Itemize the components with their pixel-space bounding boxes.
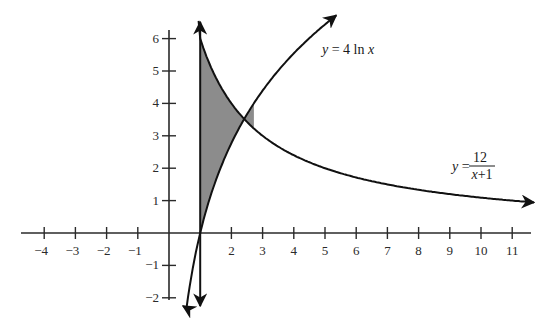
x-tick-label: 9	[447, 243, 454, 258]
label-frac-numerator: 12	[473, 150, 487, 165]
label-ln-equation: y = 4 ln x	[320, 42, 375, 57]
x-tick-label: 7	[384, 243, 391, 258]
x-tick-label: −3	[65, 243, 79, 258]
y-tick-label: −1	[145, 257, 159, 272]
label-ln-x: x	[367, 42, 375, 57]
y-tick-label: 1	[153, 193, 160, 208]
y-tick-label: 3	[153, 128, 160, 143]
x-tick-label: 4	[291, 243, 298, 258]
x-tick-label: 8	[415, 243, 422, 258]
x-tick-label: 10	[475, 243, 488, 258]
label-fraction-equation: y = 12 x+1	[450, 150, 495, 182]
x-tick-label: 6	[353, 243, 360, 258]
svg-text:x+1: x+1	[470, 167, 492, 182]
svg-text:y =: y =	[450, 159, 470, 174]
x-tick-label: −2	[97, 243, 111, 258]
x-tick-label: 3	[259, 243, 266, 258]
x-tick-label: −4	[34, 243, 48, 258]
x-tick-label: 5	[322, 243, 329, 258]
label-frac-eq: =	[458, 159, 470, 174]
y-tick-label: 6	[153, 31, 160, 46]
x-tick-label: −1	[128, 243, 142, 258]
label-frac-den-rest: +1	[478, 167, 493, 182]
x-axis-ticks: −4−3−2−1234567891011	[34, 227, 518, 258]
label-ln-eq: = 4 ln	[328, 42, 368, 57]
x-tick-label: 2	[228, 243, 235, 258]
y-axis-ticks: 654321−1−2	[145, 31, 176, 305]
y-tick-label: 2	[153, 160, 160, 175]
x-tick-label: 11	[506, 243, 519, 258]
y-tick-label: 5	[153, 63, 160, 78]
chart-canvas: −4−3−2−1234567891011 654321−1−2 y = 4 ln…	[0, 0, 556, 326]
y-tick-label: 4	[153, 95, 160, 110]
y-tick-label: −2	[145, 290, 159, 305]
